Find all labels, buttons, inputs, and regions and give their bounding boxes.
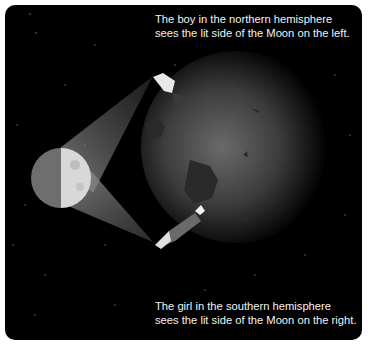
caption-northern-line1: The boy in the northern hemisphere xyxy=(155,12,350,26)
space-scene xyxy=(5,5,362,340)
moon xyxy=(31,148,91,208)
caption-southern: The girl in the southern hemisphere sees… xyxy=(155,299,357,327)
caption-southern-line2: sees the lit side of the Moon on the rig… xyxy=(155,313,357,327)
caption-southern-line1: The girl in the southern hemisphere xyxy=(155,299,357,313)
caption-northern-line2: sees the lit side of the Moon on the lef… xyxy=(155,26,350,40)
diagram-panel: The boy in the northern hemisphere sees … xyxy=(5,5,362,340)
caption-northern: The boy in the northern hemisphere sees … xyxy=(155,12,350,40)
